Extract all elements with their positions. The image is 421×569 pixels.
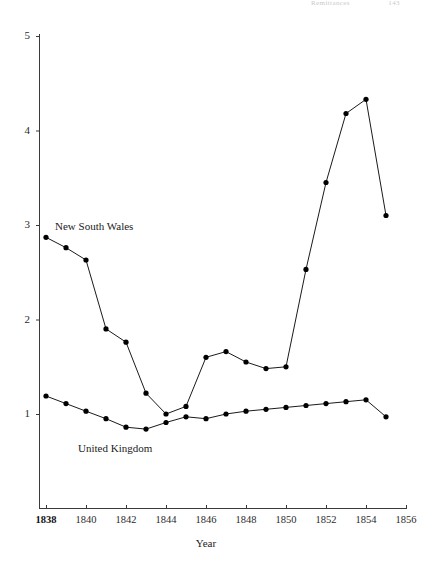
data-point bbox=[83, 409, 88, 414]
data-point bbox=[63, 245, 68, 250]
y-tick-label: 4 bbox=[8, 125, 30, 136]
data-point bbox=[303, 267, 308, 272]
data-point bbox=[303, 403, 308, 408]
data-point bbox=[223, 411, 228, 416]
series-label-new-south-wales: New South Wales bbox=[55, 221, 133, 232]
data-point bbox=[143, 391, 148, 396]
data-point bbox=[243, 359, 248, 364]
data-point bbox=[103, 326, 108, 331]
data-point bbox=[163, 411, 168, 416]
series-line-0 bbox=[46, 99, 386, 414]
data-point bbox=[103, 416, 108, 421]
data-point bbox=[343, 399, 348, 404]
data-point bbox=[223, 349, 228, 354]
data-point bbox=[283, 405, 288, 410]
data-point bbox=[323, 180, 328, 185]
data-point bbox=[243, 409, 248, 414]
data-point bbox=[383, 414, 388, 419]
data-point bbox=[343, 111, 348, 116]
data-point bbox=[143, 427, 148, 432]
data-point bbox=[183, 414, 188, 419]
data-point bbox=[123, 425, 128, 430]
series-polylines bbox=[46, 99, 386, 429]
data-point bbox=[283, 364, 288, 369]
data-point bbox=[83, 257, 88, 262]
series-label-united-kingdom: United Kingdom bbox=[78, 443, 152, 454]
x-tick-label: 1856 bbox=[383, 515, 421, 526]
data-point bbox=[123, 340, 128, 345]
data-point bbox=[183, 404, 188, 409]
data-point bbox=[363, 97, 368, 102]
data-point bbox=[163, 420, 168, 425]
data-point bbox=[63, 401, 68, 406]
y-tick-label: 5 bbox=[8, 30, 30, 41]
series-data-points bbox=[43, 97, 388, 432]
data-point bbox=[323, 401, 328, 406]
data-point bbox=[43, 393, 48, 398]
y-tick-label: 3 bbox=[8, 219, 30, 230]
x-axis-title: Year bbox=[0, 537, 412, 549]
data-point bbox=[203, 416, 208, 421]
y-tick-label: 2 bbox=[8, 314, 30, 325]
data-point bbox=[203, 355, 208, 360]
data-point bbox=[383, 213, 388, 218]
y-tick-label: 1 bbox=[8, 408, 30, 419]
data-point bbox=[363, 397, 368, 402]
data-point bbox=[43, 235, 48, 240]
series-line-1 bbox=[46, 396, 386, 429]
data-point bbox=[263, 366, 268, 371]
data-point bbox=[263, 407, 268, 412]
